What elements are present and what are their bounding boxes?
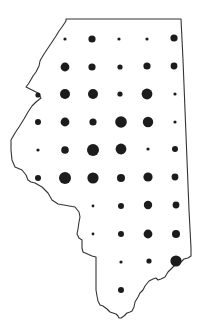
map-dot — [145, 37, 148, 40]
map-dot — [61, 118, 70, 127]
map-dot — [61, 146, 69, 154]
map-dot — [60, 89, 70, 99]
map-dot — [59, 172, 71, 184]
map-dot — [143, 62, 150, 69]
map-dot — [170, 255, 181, 266]
map-dot — [115, 116, 127, 128]
map-dot — [142, 89, 153, 100]
map-dot — [143, 172, 152, 181]
map-dot — [170, 34, 177, 41]
map-dot — [63, 37, 66, 40]
map-dot — [172, 146, 178, 152]
map-dot — [35, 119, 41, 125]
map-dot — [118, 231, 124, 237]
map-dot — [146, 258, 151, 263]
map-dot — [172, 174, 179, 181]
map-dot — [117, 37, 120, 40]
map-dot — [61, 63, 70, 72]
map-dot — [173, 120, 176, 123]
map-dot — [173, 92, 176, 95]
map-dot — [36, 148, 39, 151]
map-dot — [87, 144, 99, 156]
map-dot — [172, 230, 180, 238]
map-dot — [146, 147, 149, 150]
map-dot — [92, 205, 95, 208]
map-dot — [88, 35, 95, 42]
dot-density-map — [0, 0, 202, 335]
map-dot — [88, 63, 95, 70]
map-dot — [143, 117, 153, 127]
map-dot — [144, 230, 153, 239]
map-dot — [87, 172, 98, 183]
map-dot — [119, 260, 122, 263]
map-dot — [88, 89, 98, 99]
map-dot — [117, 64, 122, 69]
map-dot — [144, 201, 152, 209]
map-dot — [173, 202, 180, 209]
map-dot — [118, 287, 124, 293]
map-dot — [35, 92, 40, 97]
state-outline — [11, 19, 191, 318]
map-dot — [89, 118, 96, 125]
map-dot — [35, 175, 41, 181]
map-dot — [118, 203, 124, 209]
map-dot — [117, 174, 125, 182]
map-dot — [116, 144, 127, 155]
map-dot — [117, 91, 122, 96]
proportional-dots-layer — [35, 34, 182, 293]
map-dot — [92, 233, 95, 236]
map-dot — [171, 63, 178, 70]
map-canvas — [0, 0, 202, 335]
